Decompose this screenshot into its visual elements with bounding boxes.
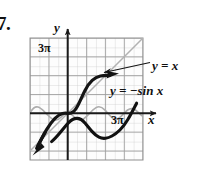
graph-canvas xyxy=(0,0,199,176)
x-axis-tick-label: 3π xyxy=(111,114,124,126)
exercise-figure: 7. xyxy=(0,0,199,176)
sine-annotation-label: y = −sin x xyxy=(110,84,163,97)
line-annotation-label: y = x xyxy=(152,59,178,72)
x-axis-label: x xyxy=(148,113,155,126)
y-axis-tick-label: 3π xyxy=(38,42,51,54)
y-axis-label: y xyxy=(54,21,60,34)
